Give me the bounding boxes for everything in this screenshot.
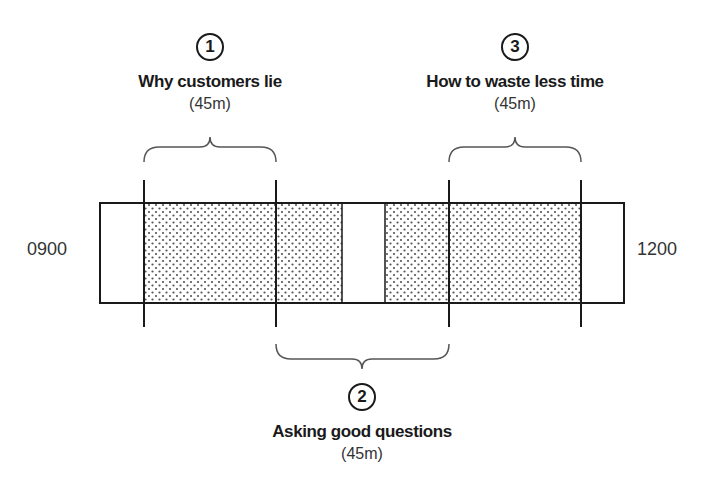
session-title: Why customers lie: [138, 72, 281, 92]
session-1-label: Why customers lie (45m): [138, 72, 281, 113]
shaded-block-1: [144, 203, 342, 303]
session-title: How to waste less time: [426, 72, 603, 92]
session-number-badge: 1: [196, 33, 224, 61]
end-time-label: 1200: [637, 239, 677, 260]
session-duration: (45m): [138, 95, 281, 113]
session-duration: (45m): [272, 445, 452, 463]
brace-2: [276, 344, 449, 369]
session-number-badge: 3: [501, 33, 529, 61]
start-time-label: 0900: [27, 239, 67, 260]
session-title: Asking good questions: [272, 422, 452, 442]
session-3-label: How to waste less time (45m): [426, 72, 603, 113]
brace-1: [144, 137, 276, 162]
shaded-block-2: [385, 203, 581, 303]
session-duration: (45m): [426, 95, 603, 113]
brace-3: [449, 137, 581, 162]
session-2-label: Asking good questions (45m): [272, 422, 452, 463]
session-number-badge: 2: [348, 383, 376, 411]
